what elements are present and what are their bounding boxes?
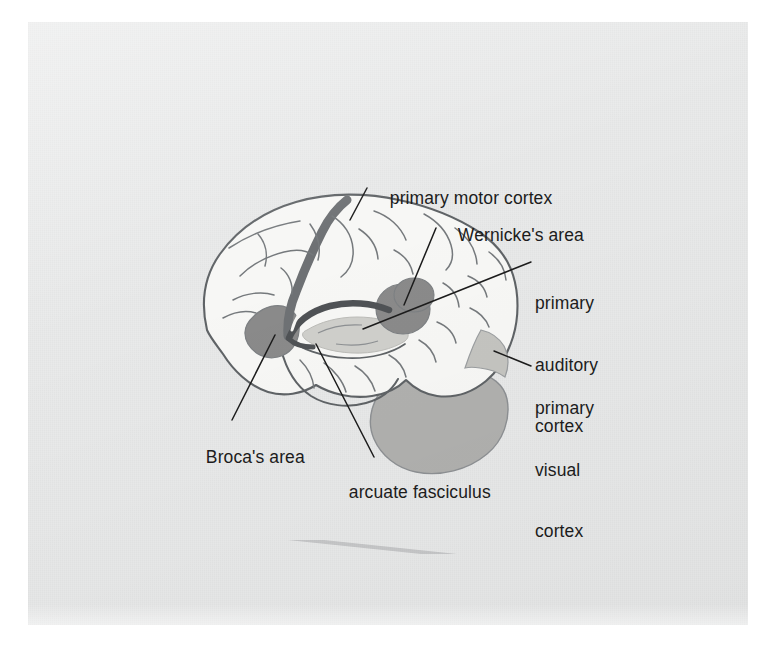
label-brocas-area-line1: Broca's area — [206, 447, 305, 467]
label-primary-visual-cortex-line3: cortex — [535, 521, 594, 542]
label-primary-visual-cortex: primary visual cortex — [535, 357, 594, 583]
label-wernickes-area-line1: Wernicke's area — [458, 225, 584, 245]
label-primary-visual-cortex-line1: primary — [535, 398, 594, 419]
label-arcuate-fasciculus: arcuate fasciculus — [329, 461, 491, 523]
label-primary-auditory-cortex-line1: primary — [535, 293, 598, 314]
wernickes-area-region-upper — [394, 278, 434, 312]
label-primary-visual-cortex-line2: visual — [535, 460, 594, 481]
figure-root: primary motor cortex Wernicke's area pri… — [0, 0, 772, 652]
label-arcuate-fasciculus-line1: arcuate fasciculus — [349, 482, 491, 502]
brain-diagram — [0, 0, 772, 652]
label-brocas-area: Broca's area — [186, 426, 305, 488]
